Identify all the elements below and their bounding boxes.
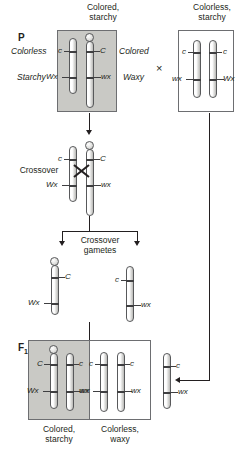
f1-right-b-allele-bottom: wx [131, 386, 141, 395]
crossover-normal-band-wx [69, 185, 77, 187]
arrow-gamete-left [59, 241, 65, 246]
connector-p-to-crossover [89, 113, 90, 131]
parent-left-knobbed-tick-wx [93, 77, 101, 78]
parent-right-b-allele-bottom: Wx [223, 74, 235, 83]
crossover-normal-allele-top: c [58, 154, 62, 163]
f1-left-knobbed-tick-Wx [43, 391, 50, 392]
connector-parent-right-down [209, 113, 210, 381]
connector-parent-right-to-gamete [180, 380, 210, 381]
parent-left-chromosome-normal [69, 38, 77, 94]
gamete-left-allele-top: C [65, 272, 71, 281]
crossover-knobbed-tick-C [93, 159, 100, 160]
crossover-normal-tick-wx [62, 185, 70, 186]
gamete-left-tick-C [58, 277, 65, 278]
f1-left-knobbed-band-Wx [50, 391, 58, 393]
f1-left-normal-allele-top: c [79, 359, 83, 368]
f1-right-caption: Colorless, waxy [89, 424, 151, 444]
gamete-left-chromosome [51, 265, 59, 315]
crossover-gametes-label: Crossover gametes [68, 235, 132, 255]
arrow-gamete-right [134, 241, 140, 246]
parent-left-knobbed-allele-bottom: wx [101, 72, 111, 81]
chiasma-crossover-icon [72, 163, 92, 179]
parent-right-b-allele-top: c [223, 47, 227, 56]
connector-gamete-bracket [62, 231, 138, 232]
f1-left-knobbed-tick-C [44, 364, 50, 365]
parent-left-normal-allele-top: c [58, 46, 62, 55]
testcross-gamete-allele-top: c [176, 361, 180, 370]
gamete-left-tick-Wx [44, 303, 51, 304]
gamete-right-allele-bottom: wx [141, 300, 151, 309]
f1-right-a-tick-wx [93, 391, 101, 392]
generation-label-p: P [18, 32, 25, 43]
f1-left-knobbed-band-C [50, 364, 58, 366]
connector-crossover-down [89, 216, 90, 232]
testcross-gamete-chromosome [163, 353, 171, 409]
testcross-gamete-allele-bottom: wx [178, 387, 188, 396]
parent-left-normal-tick-c [64, 51, 70, 52]
parent-right-chromosome-a [193, 40, 201, 98]
gamete-right-allele-top: c [115, 275, 119, 284]
parent-left-knobbed-tick-C [93, 51, 100, 52]
parent-left-caption: Colored, starchy [58, 2, 148, 22]
gamete-right-chromosome [126, 266, 134, 322]
parent-left-label-colorless: Colorless [11, 46, 46, 56]
parent-left-normal-band-wx [69, 77, 77, 79]
gamete-right-band-c [126, 280, 134, 282]
parent-right-a-band-wx [193, 79, 201, 81]
parent-left-label-starchy: Starchy [17, 72, 46, 82]
gamete-left-allele-bottom: Wx [28, 298, 40, 307]
connector-gamete-to-f1 [89, 322, 90, 340]
parent-left-label-colored: Colored [119, 46, 149, 56]
parent-right-a-tick-c [188, 52, 194, 53]
crossover-knobbed-allele-bottom: wx [101, 180, 111, 189]
crossover-knobbed-allele-top: C [100, 154, 106, 163]
gamete-left-band-Wx [51, 303, 59, 305]
parent-right-chromosome-b [209, 40, 217, 98]
f1-left-knobbed-allele-top: C [37, 359, 43, 368]
f1-left-knobbed-allele-bottom: Wx [27, 386, 39, 395]
parent-right-caption: Colorless, starchy [176, 2, 248, 22]
diagram-canvas: Colored, starchy Colorless, starchy P c … [0, 0, 251, 457]
parent-left-knobbed-allele-top: C [100, 46, 106, 55]
f1-left-chromosome-knobbed [50, 353, 58, 409]
parent-right-b-tick-c [216, 52, 222, 53]
arrow-to-testcross-gamete [175, 377, 180, 383]
generation-label-f1: F1 [18, 342, 28, 355]
f1-right-a-allele-top: c [89, 359, 93, 368]
gamete-right-tick-c [121, 280, 127, 281]
parent-left-normal-band-c [69, 51, 77, 53]
crossover-normal-band-c [69, 159, 77, 161]
f1-right-b-allele-top: c [130, 359, 134, 368]
crossover-knobbed-tick-wx [93, 185, 101, 186]
f1-left-chromosome-normal [66, 353, 74, 411]
crossover-normal-allele-bottom: Wx [46, 180, 58, 189]
parent-right-a-tick-wx [186, 79, 194, 80]
f1-right-chromosome-a [100, 352, 108, 412]
f1-left-caption: Colored, starchy [28, 424, 90, 444]
testcross-gamete-tick-wx [170, 392, 178, 393]
parent-left-normal-allele-bottom: Wx [46, 72, 58, 81]
parent-right-box [178, 30, 234, 112]
arrow-p-to-crossover [86, 130, 92, 135]
parent-right-a-band-c [193, 52, 201, 54]
parent-left-normal-tick-wx [62, 77, 70, 78]
parent-right-a-allele-bottom: wx [172, 74, 182, 83]
cross-symbol: × [156, 62, 162, 74]
f1-right-a-band-wx [100, 391, 108, 393]
parent-right-a-allele-top: c [182, 47, 186, 56]
f1-right-chromosome-b [117, 352, 125, 412]
gamete-right-tick-wx [133, 305, 141, 306]
parent-left-label-waxy: Waxy [123, 72, 144, 82]
f1-right-a-band-c [100, 364, 108, 366]
f1-right-a-allele-bottom: wx [79, 386, 89, 395]
crossover-normal-tick-c [64, 159, 70, 160]
f1-offspring-left-box [28, 340, 90, 420]
f1-right-a-tick-c [95, 364, 101, 365]
crossover-label: Crossover [11, 165, 67, 175]
